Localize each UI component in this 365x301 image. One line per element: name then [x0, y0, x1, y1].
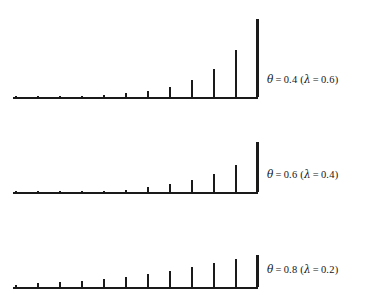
stem-bar — [59, 282, 61, 287]
stem-bar-max — [256, 19, 259, 97]
stem-bar — [147, 187, 149, 192]
paren-close-3: ) — [335, 264, 339, 275]
paren-close-2: ) — [335, 169, 339, 180]
theta-value-3: 0.8 — [284, 264, 298, 275]
stem-bar — [103, 95, 105, 97]
lambda-symbol-3: λ — [304, 263, 311, 275]
lambda-symbol-1: λ — [304, 73, 311, 85]
stem-bar — [15, 96, 17, 97]
stem-bar — [191, 267, 193, 287]
stem-bar — [235, 259, 237, 287]
stem-bar — [125, 277, 127, 287]
stem-bar — [169, 184, 171, 192]
stem-bar — [37, 96, 39, 97]
stem-bar — [125, 190, 127, 192]
stem-bar — [213, 263, 215, 287]
stem-bar-max — [256, 142, 259, 192]
stem-bar — [213, 69, 215, 97]
stem-bar — [147, 91, 149, 97]
equals-sign-2: = — [274, 169, 284, 180]
paren-close-1: ) — [335, 74, 339, 85]
stem-bar — [37, 191, 39, 192]
stem-bar — [81, 191, 83, 192]
equals-sign-3b: = — [311, 264, 321, 275]
stem-bar — [81, 96, 83, 97]
theta-value-1: 0.4 — [284, 74, 298, 85]
stem-bar — [147, 274, 149, 287]
theta-symbol-3: θ — [267, 263, 274, 275]
stem-bar — [169, 271, 171, 287]
lambda-value-2: 0.4 — [321, 169, 335, 180]
stem-plot-2 — [13, 105, 263, 194]
stem-plot-3 — [13, 200, 263, 289]
panel-theta-0.8: θ=0.8 (λ=0.2) — [0, 200, 365, 301]
panel-label-1: θ=0.4 (λ=0.6) — [267, 73, 338, 85]
stem-plot-1 — [13, 0, 263, 99]
stem-bar — [81, 281, 83, 287]
stem-bar — [37, 283, 39, 287]
theta-symbol-2: θ — [267, 168, 274, 180]
stem-bar — [191, 180, 193, 192]
stem-bar — [103, 191, 105, 192]
stem-bar — [235, 165, 237, 192]
stem-bar — [59, 96, 61, 97]
panel-theta-0.6: θ=0.6 (λ=0.4) — [0, 105, 365, 200]
panel-label-2: θ=0.6 (λ=0.4) — [267, 168, 338, 180]
lambda-value-3: 0.2 — [321, 264, 335, 275]
stem-bar — [169, 87, 171, 97]
stem-bar — [125, 93, 127, 97]
stem-bar-max — [256, 255, 259, 287]
stem-bar — [213, 174, 215, 192]
equals-sign-1: = — [274, 74, 284, 85]
lambda-value-1: 0.6 — [321, 74, 335, 85]
stem-bar — [103, 279, 105, 287]
panel-theta-0.4: θ=0.4 (λ=0.6) — [0, 0, 365, 105]
stem-bar — [59, 191, 61, 192]
x-axis-line-3 — [13, 287, 258, 289]
theta-value-2: 0.6 — [284, 169, 298, 180]
geometric-distribution-figure: θ=0.4 (λ=0.6) θ=0.6 (λ=0.4) — [0, 0, 365, 301]
theta-symbol-1: θ — [267, 73, 274, 85]
panel-label-3: θ=0.8 (λ=0.2) — [267, 263, 338, 275]
equals-sign-1b: = — [311, 74, 321, 85]
lambda-symbol-2: λ — [304, 168, 311, 180]
x-axis-line-1 — [13, 97, 258, 99]
equals-sign-2b: = — [311, 169, 321, 180]
equals-sign-3: = — [274, 264, 284, 275]
stem-bar — [235, 50, 237, 97]
stem-bar — [191, 80, 193, 97]
stem-bar — [15, 191, 17, 192]
stem-bar — [15, 285, 17, 287]
x-axis-line-2 — [13, 192, 258, 194]
